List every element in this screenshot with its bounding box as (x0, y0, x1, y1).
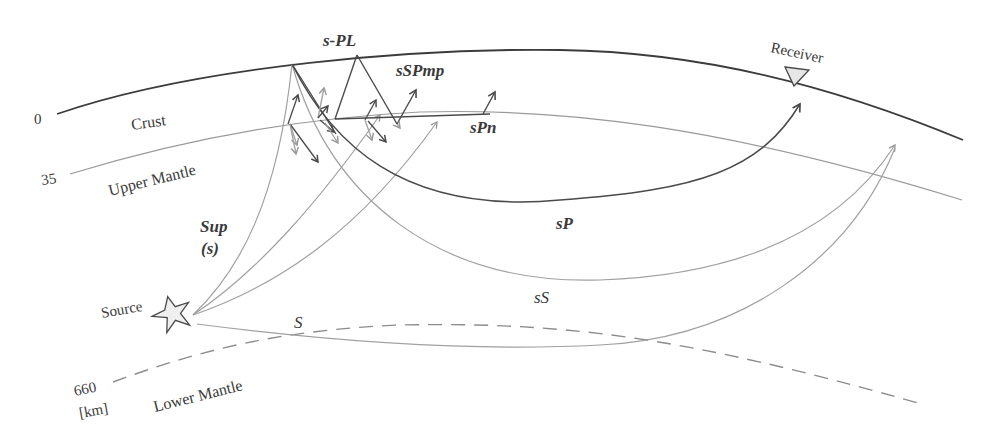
phase-label-s-pl: s-PL (322, 31, 356, 50)
phase-label-sp: sP (555, 214, 574, 233)
source-label: Source (100, 298, 144, 321)
phase-label-s: S (294, 313, 303, 332)
layer-label-upper-mantle: Upper Mantle (107, 161, 198, 200)
depth-label-0: 0 (34, 111, 42, 127)
depth-label-35: 35 (40, 170, 57, 188)
phase-label-ss: sS (534, 288, 550, 307)
layer-label-crust: Crust (130, 111, 167, 133)
phase-label-spn: sPn (469, 118, 496, 137)
phase-label-sup-sub: (s) (201, 239, 219, 258)
phase-label-sspmp: sSPmp (395, 61, 444, 80)
ss-ray (292, 64, 895, 280)
receiver-marker (785, 67, 809, 86)
seismic-ray-path-diagram: 0 35 660 [km] Crust Upper Mantle Lower M… (0, 0, 998, 447)
phase-label-sup: Sup (200, 217, 227, 236)
depth-unit: [km] (78, 400, 110, 421)
depth-label-660: 660 (72, 379, 97, 399)
moho-boundary (70, 111, 962, 200)
source-star-icon (148, 291, 196, 335)
sp-ray (292, 64, 800, 202)
surface-boundary (57, 50, 963, 140)
layer-label-lower-mantle: Lower Mantle (152, 376, 244, 415)
receiver-label: Receiver (769, 39, 824, 66)
